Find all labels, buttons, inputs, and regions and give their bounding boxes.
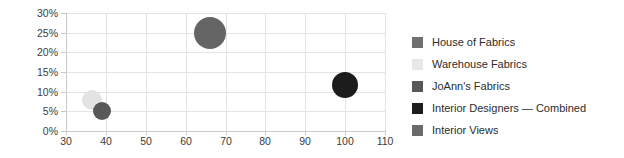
bubble-data-point [332,72,358,98]
y-axis-tick-label: 5% [0,106,58,116]
y-axis-tick-label: 20% [0,47,58,57]
legend-swatch-icon [412,125,423,136]
bubble-data-point [93,102,111,120]
legend-item[interactable]: Warehouse Fabrics [412,53,624,75]
x-axis-tick-label: 90 [285,136,325,147]
x-axis-tick-label: 50 [126,136,166,147]
x-axis-tick-label: 30 [46,136,86,147]
x-axis-tick-label: 60 [166,136,206,147]
y-axis-tick-label: 30% [0,8,58,18]
gridline-vertical [385,13,386,131]
legend-item-label: Warehouse Fabrics [432,58,527,71]
legend-swatch-icon [412,37,423,48]
legend-swatch-icon [412,59,423,70]
chart-legend: House of FabricsWarehouse FabricsJoAnn's… [412,31,624,141]
plot-wrapper: 0%5%10%15%20%25%30% 30405060708090100110 [0,0,400,158]
x-axis-tick-label: 70 [206,136,246,147]
legend-item-label: Interior Views [432,124,498,137]
y-axis-tick-label: 10% [0,87,58,97]
legend-item-label: Interior Designers — Combined [432,102,586,115]
legend-swatch-icon [412,103,423,114]
x-axis-tick-label: 40 [86,136,126,147]
legend-item[interactable]: JoAnn's Fabrics [412,75,624,97]
legend-item[interactable]: Interior Designers — Combined [412,97,624,119]
x-axis-tick-label: 110 [365,136,405,147]
legend-item-label: House of Fabrics [432,36,515,49]
y-axis-tick-label: 25% [0,28,58,38]
y-axis-tick-label: 0% [0,126,58,136]
legend-item-label: JoAnn's Fabrics [432,80,510,93]
bubble-chart: 0%5%10%15%20%25%30% 30405060708090100110… [0,0,624,158]
y-axis-tick-label: 15% [0,67,58,77]
legend-swatch-icon [412,81,423,92]
x-axis-tick-label: 100 [325,136,365,147]
x-axis-tick-label: 80 [245,136,285,147]
legend-item[interactable]: House of Fabrics [412,31,624,53]
legend-item[interactable]: Interior Views [412,119,624,141]
bubble-data-point [194,17,226,49]
